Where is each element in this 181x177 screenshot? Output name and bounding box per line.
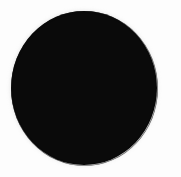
image-canvas	[0, 0, 181, 177]
black-circle	[11, 11, 157, 165]
